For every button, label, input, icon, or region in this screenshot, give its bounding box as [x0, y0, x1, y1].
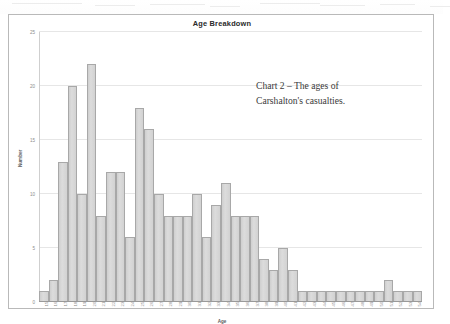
bar [58, 162, 68, 302]
bar [288, 270, 298, 302]
plot-area [39, 32, 422, 302]
x-tick-label: 54 [417, 302, 422, 307]
bar [125, 237, 135, 302]
x-tick-cell: 31 [192, 303, 202, 319]
scan-artifact-strip [0, 0, 443, 14]
bar [269, 270, 279, 302]
bar [202, 237, 212, 302]
x-tick-cell: 44 [317, 303, 327, 319]
bar [250, 216, 260, 302]
x-tick-cell: 45 [326, 303, 336, 319]
scan-fleck [210, 6, 240, 7]
bar [49, 280, 59, 302]
x-tick-cell: 39 [269, 303, 279, 319]
bar [192, 194, 202, 302]
bar [240, 216, 250, 302]
scan-fleck [320, 5, 365, 6]
bar [173, 216, 183, 302]
x-tick-cell: 23 [116, 303, 126, 319]
x-tick-cell: 22 [106, 303, 116, 319]
bar-series [39, 32, 422, 302]
x-tick-cell: 47 [346, 303, 356, 319]
chart-container: Age Breakdown 0510152025 Number 15161718… [8, 14, 434, 309]
bar [144, 129, 154, 302]
x-tick-cell: 28 [164, 303, 174, 319]
bar [87, 64, 97, 302]
x-tick-cell: 20 [87, 303, 97, 319]
x-tick-cell: 50 [374, 303, 384, 319]
bar [77, 194, 87, 302]
x-tick-cell: 43 [307, 303, 317, 319]
x-tick-cell: 40 [278, 303, 288, 319]
x-axis-title: Age [9, 319, 435, 324]
scan-fleck [95, 5, 135, 6]
x-tick-cell: 17 [58, 303, 68, 319]
y-tick-label: 5 [32, 246, 35, 251]
x-tick-cell: 18 [68, 303, 78, 319]
x-tick-cell: 37 [250, 303, 260, 319]
x-tick-cell: 19 [77, 303, 87, 319]
x-tick-cell: 29 [173, 303, 183, 319]
y-axis-tick-labels: 0510152025 [9, 32, 39, 302]
y-tick-label: 15 [30, 138, 35, 143]
x-tick-cell: 25 [135, 303, 145, 319]
bar [106, 172, 116, 302]
y-axis-title: Number [18, 150, 23, 167]
x-tick-cell: 53 [403, 303, 413, 319]
bar [221, 183, 231, 302]
y-tick-label: 25 [30, 30, 35, 35]
x-tick-cell: 38 [259, 303, 269, 319]
y-tick-label: 10 [30, 192, 35, 197]
scan-fleck [150, 4, 205, 5]
x-tick-cell: 46 [336, 303, 346, 319]
x-tick-cell: 42 [298, 303, 308, 319]
bar [96, 216, 106, 302]
bar [68, 86, 78, 302]
bar [211, 205, 221, 302]
bar [231, 216, 241, 302]
bar [154, 194, 164, 302]
bar [384, 280, 394, 302]
x-tick-cell: 54 [413, 303, 423, 319]
x-tick-cell: 52 [393, 303, 403, 319]
x-tick-cell: 21 [96, 303, 106, 319]
y-tick-label: 20 [30, 84, 35, 89]
caption-line-2: Carshalton's casualties. [256, 93, 426, 108]
bar [135, 108, 145, 302]
x-tick-cell: 30 [183, 303, 193, 319]
x-tick-cell: 35 [231, 303, 241, 319]
x-tick-cell: 27 [154, 303, 164, 319]
x-tick-cell: 41 [288, 303, 298, 319]
chart-caption: Chart 2 – The ages of Carshalton's casua… [256, 78, 426, 108]
x-axis-tick-labels: 1516171819202122232425262728293031323334… [39, 303, 422, 319]
x-tick-cell: 48 [355, 303, 365, 319]
x-tick-cell: 36 [240, 303, 250, 319]
bar [164, 216, 174, 302]
bar [183, 216, 193, 302]
x-tick-cell: 26 [144, 303, 154, 319]
scan-fleck [260, 3, 320, 4]
chart-title: Age Breakdown [9, 19, 435, 28]
bar [278, 248, 288, 302]
x-tick-cell: 33 [211, 303, 221, 319]
x-tick-cell: 34 [221, 303, 231, 319]
x-tick-cell: 49 [365, 303, 375, 319]
bar [116, 172, 126, 302]
bar [259, 259, 269, 302]
x-tick-cell: 32 [202, 303, 212, 319]
caption-line-1: Chart 2 – The ages of [256, 78, 426, 93]
x-tick-cell: 15 [39, 303, 49, 319]
x-tick-cell: 51 [384, 303, 394, 319]
scan-fleck [430, 6, 450, 7]
x-tick-cell: 24 [125, 303, 135, 319]
x-tick-cell: 16 [49, 303, 59, 319]
scan-fleck [12, 3, 82, 4]
scan-fleck [380, 4, 415, 5]
y-tick-label: 0 [32, 300, 35, 305]
